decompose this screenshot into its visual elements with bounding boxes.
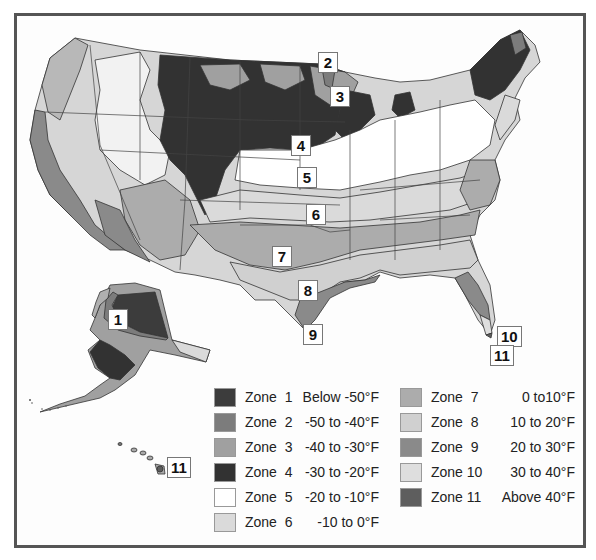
- legend-zone-range: Below -50°F: [303, 389, 379, 405]
- legend: Zone 1 Below -50°F Zone 2 -50 to -40°F Z…: [214, 386, 584, 536]
- zone8-swatch: [400, 413, 422, 432]
- zone-label-11b: 11: [167, 457, 191, 478]
- legend-zone-range: 10 to 20°F: [510, 414, 575, 430]
- zone-label-7: 7: [272, 246, 292, 267]
- zone-label-5: 5: [297, 167, 317, 188]
- legend-item-zone2: Zone 2 -50 to -40°F: [214, 411, 379, 433]
- zone4-swatch: [214, 463, 236, 482]
- legend-zone-name: Zone 4: [245, 464, 292, 480]
- zone11-swatch: [400, 488, 422, 507]
- zone-label-11a: 11: [490, 345, 514, 366]
- zone-label-10: 10: [497, 326, 522, 347]
- legend-item-zone7: Zone 7 0 to10°F: [400, 386, 575, 408]
- zone-label-8: 8: [298, 280, 318, 301]
- zone5-swatch: [214, 488, 236, 507]
- legend-zone-name: Zone 6: [245, 514, 292, 530]
- legend-item-zone8: Zone 8 10 to 20°F: [400, 411, 575, 433]
- legend-zone-range: -20 to -10°F: [305, 489, 379, 505]
- legend-item-zone6: Zone 6 -10 to 0°F: [214, 511, 379, 533]
- zone6-swatch: [214, 513, 236, 532]
- legend-item-zone3: Zone 3 -40 to -30°F: [214, 436, 379, 458]
- legend-zone-range: 20 to 30°F: [510, 439, 575, 455]
- legend-zone-name: Zone 9: [431, 439, 478, 455]
- zone10-swatch: [400, 463, 422, 482]
- zone3-swatch: [214, 438, 236, 457]
- zone7-swatch: [400, 388, 422, 407]
- legend-zone-range: -50 to -40°F: [305, 414, 379, 430]
- hawaii-islands: [118, 443, 165, 475]
- zone1-swatch: [214, 388, 236, 407]
- legend-zone-name: Zone 3: [245, 439, 292, 455]
- legend-zone-name: Zone 5: [245, 489, 292, 505]
- legend-zone-name: Zone 11: [431, 489, 481, 505]
- legend-item-zone1: Zone 1 Below -50°F: [214, 386, 379, 408]
- legend-zone-range: -30 to -20°F: [305, 464, 379, 480]
- legend-zone-range: -40 to -30°F: [305, 439, 379, 455]
- zone-label-1: 1: [108, 309, 128, 330]
- zone-label-4: 4: [291, 135, 311, 156]
- legend-item-zone11: Zone 11 Above 40°F: [400, 486, 575, 508]
- zone-label-3: 3: [330, 86, 350, 107]
- legend-item-zone9: Zone 9 20 to 30°F: [400, 436, 575, 458]
- zone9-swatch: [400, 438, 422, 457]
- legend-zone-name: Zone 10: [431, 464, 482, 480]
- legend-zone-range: 30 to 40°F: [510, 464, 575, 480]
- zone2-swatch: [214, 413, 236, 432]
- legend-zone-range: -10 to 0°F: [317, 514, 379, 530]
- zone-label-6: 6: [306, 204, 326, 225]
- legend-item-zone5: Zone 5 -20 to -10°F: [214, 486, 379, 508]
- zone-label-2: 2: [318, 52, 338, 73]
- legend-zone-name: Zone 2: [245, 414, 292, 430]
- legend-zone-range: Above 40°F: [502, 489, 575, 505]
- legend-item-zone10: Zone 10 30 to 40°F: [400, 461, 575, 483]
- legend-item-zone4: Zone 4 -30 to -20°F: [214, 461, 379, 483]
- legend-zone-name: Zone 7: [431, 389, 478, 405]
- legend-zone-range: 0 to10°F: [522, 389, 575, 405]
- zone-label-9: 9: [303, 324, 323, 345]
- legend-zone-name: Zone 8: [431, 414, 478, 430]
- legend-zone-name: Zone 1: [245, 389, 292, 405]
